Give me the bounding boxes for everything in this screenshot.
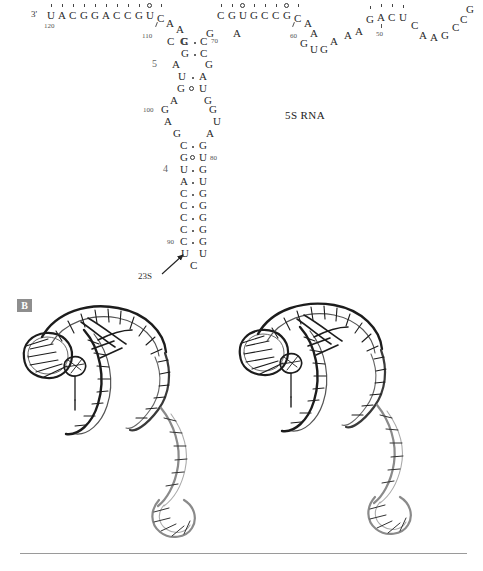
position-number-100: 100: [143, 107, 154, 114]
position-number-60: 60: [290, 33, 297, 40]
right-stereo-view: [231, 300, 446, 550]
left-stereo-view: [18, 300, 233, 550]
position-number-90: 90: [167, 239, 174, 246]
figure-panel: 3' U A C G G A C C G U C: [0, 0, 483, 571]
figure-divider: [20, 553, 467, 554]
three-prime-label: 3': [31, 9, 37, 19]
position-number-120: 120: [44, 23, 55, 30]
position-number-70: 70: [211, 38, 218, 45]
wobble-marker: [189, 86, 194, 91]
wobble-marker: [147, 3, 152, 8]
helix-label-4: 4: [163, 163, 168, 174]
position-number-80: 80: [210, 155, 217, 162]
connector-label: 23S: [138, 271, 152, 281]
helix-label-5: 5: [152, 58, 157, 69]
position-number-50: 50: [376, 31, 383, 38]
wobble-marker: [190, 155, 195, 160]
molecule-label: 5S RNA: [285, 109, 325, 121]
position-number-110: 110: [142, 33, 152, 40]
connector-arrow-icon: [160, 252, 194, 278]
